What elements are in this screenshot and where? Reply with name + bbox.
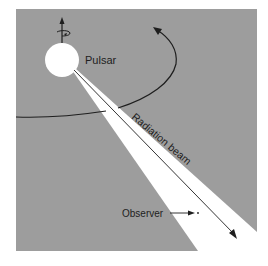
pulsar-star xyxy=(45,43,79,77)
pulsar-label: Pulsar xyxy=(85,54,117,66)
observer-label: Observer xyxy=(122,208,164,219)
observer-point xyxy=(197,212,199,214)
pulsar-diagram: Pulsar Radiation beam Observer xyxy=(0,0,268,266)
